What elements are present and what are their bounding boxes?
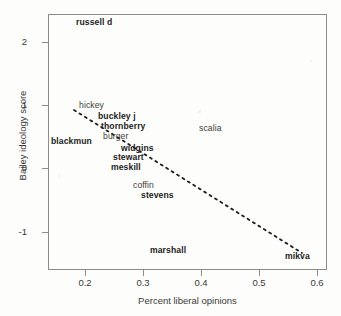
point-label-coffin: coffin — [133, 181, 154, 190]
scatter-plot-figure: 2 1 0 -1 0.2 0.3 0.4 0.5 0.6 russell d h… — [0, 0, 341, 316]
point-label-meskill: meskill — [111, 163, 141, 172]
point-label-blackmun: blackmun — [51, 137, 92, 146]
point-label-stevens: stevens — [141, 191, 174, 200]
point-label-marshall: marshall — [150, 246, 186, 255]
x-axis-title: Percent liberal opinions — [48, 295, 327, 306]
regression-fit-line — [0, 0, 341, 316]
point-label-hickey: hickey — [79, 101, 104, 110]
point-label-stewart: stewart — [113, 153, 144, 162]
point-label-buckley-j: buckley j — [98, 112, 136, 121]
point-label-scalia: scalia — [199, 124, 222, 133]
point-label-burger: burger — [103, 132, 128, 141]
y-axis-title: Bailey ideology score — [17, 61, 28, 211]
point-label-thornberry: thornberry — [101, 122, 145, 131]
point-label-russell-d: russell d — [76, 18, 112, 27]
point-label-mikva: mikva — [285, 252, 310, 261]
